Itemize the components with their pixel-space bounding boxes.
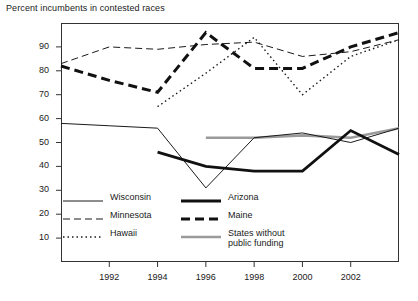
x-axis-tick-label: 1994 <box>138 272 178 282</box>
legend-swatch-thick-gray-solid-icon <box>180 229 222 241</box>
legend-item-minnesota: Minnesota <box>62 210 180 223</box>
legend-item-label: Maine <box>228 210 253 220</box>
y-axis-tick-label: 50 <box>27 137 49 147</box>
x-axis-tick-label: 2002 <box>331 272 371 282</box>
legend-row: Minnesota Maine <box>62 210 312 228</box>
y-axis-tick-label: 10 <box>27 232 49 242</box>
y-axis-tick-label: 20 <box>27 208 49 218</box>
chart-svg <box>0 0 418 301</box>
legend-item-arizona: Arizona <box>180 192 298 205</box>
y-axis-tick-label: 80 <box>27 65 49 75</box>
legend-item-states-without-public-funding: States without public funding <box>180 228 312 248</box>
y-axis-tick-label: 70 <box>27 89 49 99</box>
legend-item-label: Wisconsin <box>110 192 151 202</box>
legend-item-maine: Maine <box>180 210 298 223</box>
legend-swatch-thick-dashed-icon <box>180 211 222 223</box>
x-axis-tick-label: 1998 <box>234 272 274 282</box>
x-axis-tick-label: 1996 <box>186 272 226 282</box>
legend-item-wisconsin: Wisconsin <box>62 192 180 205</box>
legend-swatch-thick-solid-icon <box>180 193 222 205</box>
y-axis-tick-label: 40 <box>27 160 49 170</box>
legend-swatch-dotted-icon <box>62 229 104 241</box>
legend-item-hawaii: Hawaii <box>62 228 180 241</box>
series-line-maine <box>61 33 399 93</box>
chart-legend: Wisconsin Arizona Minnesota Maine Hawaii <box>62 192 312 246</box>
legend-row: Wisconsin Arizona <box>62 192 312 210</box>
chart-container: Percent incumbents in contested races 90… <box>0 0 418 301</box>
x-axis-tick-label: 1992 <box>89 272 129 282</box>
y-axis-tick-label: 90 <box>27 41 49 51</box>
x-axis-tick-label: 2000 <box>282 272 322 282</box>
legend-item-label: Arizona <box>228 192 259 202</box>
legend-item-label: Hawaii <box>110 228 137 238</box>
legend-swatch-thin-solid-icon <box>62 193 104 205</box>
y-axis-tick-label: 60 <box>27 113 49 123</box>
legend-row: Hawaii States without public funding <box>62 228 312 246</box>
legend-swatch-thin-dashed-icon <box>62 211 104 223</box>
y-axis-tick-label: 30 <box>27 184 49 194</box>
legend-item-label: Minnesota <box>110 210 152 220</box>
legend-item-label: States without public funding <box>228 228 308 248</box>
series-line-minnesota <box>61 40 399 64</box>
